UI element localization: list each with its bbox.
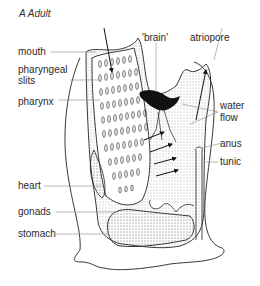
- label-tunic: tunic: [220, 156, 241, 167]
- stomach: [108, 210, 195, 247]
- label-pharyngeal-slits: pharyngeal: [18, 64, 67, 75]
- label-heart: heart: [18, 180, 41, 191]
- label-gonads: gonads: [18, 206, 51, 217]
- label-water-flow: water: [220, 100, 244, 111]
- label-atriopore: atriopore: [190, 32, 229, 43]
- label-water-flow-2: flow: [220, 112, 238, 123]
- label-stomach: stomach: [18, 228, 56, 239]
- label-anus: anus: [220, 138, 242, 149]
- label-pharynx: pharynx: [18, 96, 54, 107]
- label-brain: 'brain': [142, 32, 168, 43]
- label-pharyngeal-slits-2: slits: [18, 75, 35, 86]
- label-mouth: mouth: [18, 46, 46, 57]
